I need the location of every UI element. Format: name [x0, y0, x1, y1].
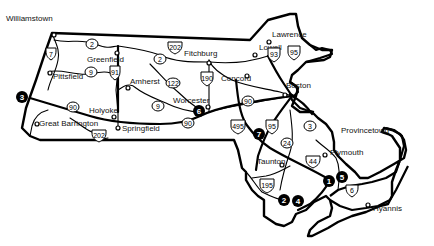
svg-text:122: 122	[167, 80, 179, 87]
state-route-shield: 122	[166, 78, 180, 88]
svg-text:2: 2	[282, 196, 287, 205]
svg-text:7: 7	[257, 130, 262, 139]
svg-text:3: 3	[20, 93, 25, 102]
state-route-shield: 90	[67, 102, 79, 112]
marker-3: 3	[16, 91, 28, 103]
town-label: Boston	[286, 81, 311, 90]
svg-text:6: 6	[350, 187, 354, 194]
svg-text:202: 202	[169, 44, 181, 51]
town-label: Worcester	[173, 96, 210, 105]
town-label: Pittsfield	[53, 72, 83, 81]
svg-text:4: 4	[296, 197, 301, 206]
svg-text:195: 195	[261, 182, 273, 189]
svg-text:9: 9	[156, 103, 160, 110]
svg-text:495: 495	[232, 123, 244, 130]
town-label: Plymouth	[330, 148, 363, 157]
town-label: Hyannis	[373, 204, 402, 213]
svg-text:7: 7	[49, 51, 53, 58]
state-route-shield: 3	[304, 121, 316, 131]
state-route-shield: 90	[182, 118, 194, 128]
state-route-shield: 2	[86, 39, 98, 49]
marker-6: 6	[193, 105, 205, 117]
state-route-shield: 90	[242, 96, 254, 106]
town-label: Taunton	[257, 157, 285, 166]
svg-text:2: 2	[90, 41, 94, 48]
massachusetts-map: Williamstown Greenfield Pittsfield Amher…	[0, 0, 434, 246]
marker-1: 1	[323, 175, 335, 187]
town-label: Amherst	[130, 77, 161, 86]
svg-text:2: 2	[158, 56, 162, 63]
marker-7: 7	[253, 128, 265, 140]
svg-text:90: 90	[69, 104, 77, 111]
state-route-shield: 9	[152, 101, 164, 111]
svg-text:95: 95	[290, 49, 298, 56]
state-route-shield: 24	[281, 138, 293, 148]
svg-text:91: 91	[111, 69, 119, 76]
svg-text:90: 90	[244, 98, 252, 105]
svg-text:44: 44	[309, 158, 317, 165]
svg-text:6: 6	[197, 107, 202, 116]
town-label: Holyoke	[89, 106, 118, 115]
marker-5: 5	[336, 171, 348, 183]
svg-text:3: 3	[308, 123, 312, 130]
state-route-shield: 9	[85, 67, 97, 77]
town-label: Provincetown	[341, 126, 389, 135]
town-label: Concord	[221, 74, 251, 83]
svg-text:95: 95	[268, 123, 276, 130]
svg-text:90: 90	[184, 120, 192, 127]
svg-text:93: 93	[270, 51, 278, 58]
marker-4: 4	[292, 195, 304, 207]
svg-text:202: 202	[93, 132, 105, 139]
svg-text:5: 5	[340, 173, 345, 182]
town-label: Williamstown	[6, 14, 53, 23]
marker-2: 2	[278, 194, 290, 206]
svg-text:1: 1	[327, 177, 332, 186]
svg-text:24: 24	[283, 140, 291, 147]
svg-text:190: 190	[201, 75, 213, 82]
svg-text:9: 9	[89, 69, 93, 76]
town-label: Great Barrington	[39, 119, 98, 128]
town-label: Greenfield	[87, 55, 124, 64]
state-route-shield: 2	[154, 54, 166, 64]
town-label: Fitchburg	[184, 49, 217, 58]
town-label: Springfield	[122, 124, 160, 133]
town-label: Lawrence	[272, 30, 307, 39]
